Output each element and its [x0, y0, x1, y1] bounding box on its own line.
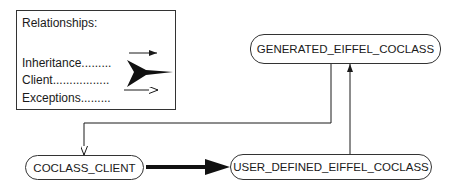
- legend-box: Relationships: Inheritance......... Clie…: [16, 10, 176, 110]
- node-user-defined-eiffel-coclass[interactable]: USER_DEFINED_EIFFEL_COCLASS: [230, 154, 432, 180]
- edge-client: [146, 159, 230, 175]
- legend-item-inheritance: Inheritance.........: [22, 56, 111, 70]
- node-generated-eiffel-coclass[interactable]: GENERATED_EIFFEL_COCLASS: [250, 34, 441, 64]
- node-label: COCLASS_CLIENT: [33, 162, 135, 174]
- node-label: GENERATED_EIFFEL_COCLASS: [257, 43, 434, 55]
- node-label: USER_DEFINED_EIFFEL_COCLASS: [233, 161, 429, 173]
- legend-item-client: Client.................: [22, 73, 109, 87]
- legend-item-exceptions: Exceptions.........: [22, 91, 111, 105]
- node-coclass-client[interactable]: COCLASS_CLIENT: [25, 155, 144, 180]
- legend-title: Relationships:: [22, 16, 97, 30]
